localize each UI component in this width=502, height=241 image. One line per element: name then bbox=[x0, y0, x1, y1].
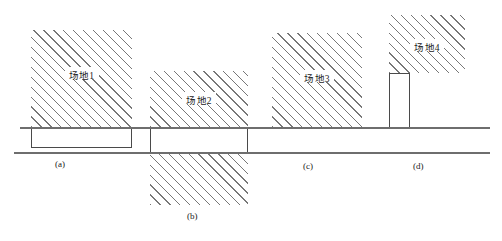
caption-c: (c) bbox=[303, 161, 313, 171]
site-block-2-hatch-lower bbox=[150, 152, 248, 205]
caption-a: (a) bbox=[55, 159, 65, 169]
support-column bbox=[389, 73, 410, 128]
caption-b: (b) bbox=[187, 211, 198, 221]
site-block-2-label: 场地2 bbox=[150, 93, 248, 107]
site-block-3-label: 场地3 bbox=[272, 71, 362, 85]
upper-ground-line bbox=[20, 127, 490, 129]
site-block-1-label: 场地1 bbox=[31, 68, 132, 82]
lower-ground-line bbox=[14, 152, 490, 154]
site-block-4-label: 场地4 bbox=[389, 40, 465, 54]
caption-d: (d) bbox=[413, 161, 424, 171]
site-layout-diagram: 场地1 场地2 场地3 场地4 (a) (b) (c) (d) bbox=[0, 0, 502, 241]
